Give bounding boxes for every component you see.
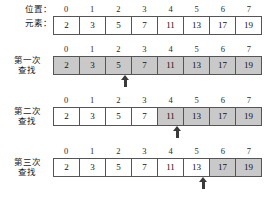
- index-label: 3: [131, 4, 157, 15]
- array-cell: 17: [210, 17, 236, 34]
- arrow-shaft: [176, 130, 179, 138]
- array-cell: 13: [184, 17, 210, 34]
- index-label: 5: [184, 146, 210, 157]
- array-cell: 13: [184, 108, 210, 125]
- index-label: 7: [236, 95, 262, 106]
- array-cell: 3: [80, 17, 106, 34]
- array-row-2: 2 3 5 7 11 13 17 19: [53, 107, 262, 126]
- array-cell: 11: [158, 57, 184, 74]
- array-cell: 17: [210, 57, 236, 74]
- index-label: 6: [210, 44, 236, 55]
- index-label: 1: [79, 146, 105, 157]
- row-label-line1: 第三次: [4, 157, 50, 167]
- index-label: 0: [53, 44, 79, 55]
- array-cell: 7: [132, 57, 158, 74]
- index-label: 2: [105, 44, 131, 55]
- array-cell: 3: [80, 108, 106, 125]
- index-label: 5: [184, 4, 210, 15]
- index-label: 7: [236, 146, 262, 157]
- index-label: 4: [158, 44, 184, 55]
- array-cell: 11: [158, 108, 184, 125]
- array-cell: 11: [158, 17, 184, 34]
- index-label: 1: [79, 4, 105, 15]
- array-cell: 7: [132, 159, 158, 176]
- array-cell: 11: [158, 159, 184, 176]
- index-strip-1: 0 1 2 3 4 5 6 7: [53, 44, 262, 55]
- row-label-pass-1: 第一次 查找: [4, 55, 50, 75]
- index-label: 4: [158, 95, 184, 106]
- array-cell: 7: [132, 17, 158, 34]
- index-label: 2: [105, 95, 131, 106]
- index-label: 5: [184, 95, 210, 106]
- array-cell: 5: [106, 17, 132, 34]
- array-cell: 3: [80, 57, 106, 74]
- index-label: 4: [158, 4, 184, 15]
- index-label: 6: [210, 4, 236, 15]
- array-cell: 19: [236, 17, 261, 34]
- array-cell: 5: [106, 57, 132, 74]
- arrow-shaft: [202, 181, 205, 189]
- binary-search-diagram: 位置： 0 1 2 3 4 5 6 7 元素： 2 3 5 7 11 13 17…: [0, 0, 269, 198]
- array-cell: 17: [210, 159, 236, 176]
- array-row-3: 2 3 5 7 11 13 17 19: [53, 158, 262, 177]
- index-label: 2: [105, 146, 131, 157]
- element-label: 元素：: [2, 18, 52, 28]
- array-cell: 2: [54, 159, 80, 176]
- pointer-arrow-pass-1: [121, 75, 130, 87]
- index-label: 4: [158, 146, 184, 157]
- index-label: 0: [53, 95, 79, 106]
- row-label-pass-3: 第三次 查找: [4, 157, 50, 177]
- array-cell: 2: [54, 17, 80, 34]
- index-label: 0: [53, 146, 79, 157]
- position-label: 位置：: [2, 4, 52, 14]
- row-label-line1: 第二次: [4, 106, 50, 116]
- array-cell: 17: [210, 108, 236, 125]
- array-cell: 5: [106, 159, 132, 176]
- array-row-1: 2 3 5 7 11 13 17 19: [53, 56, 262, 75]
- index-label: 5: [184, 44, 210, 55]
- array-cell: 2: [54, 57, 80, 74]
- array-row-0: 2 3 5 7 11 13 17 19: [53, 16, 262, 35]
- row-label-line1: 第一次: [4, 55, 50, 65]
- array-cell: 7: [132, 108, 158, 125]
- row-label-line2: 查找: [4, 167, 50, 177]
- array-cell: 19: [236, 108, 261, 125]
- pointer-arrow-pass-2: [173, 126, 182, 138]
- row-label-line2: 查找: [4, 65, 50, 75]
- index-label: 6: [210, 95, 236, 106]
- array-cell: 2: [54, 108, 80, 125]
- array-cell: 5: [106, 108, 132, 125]
- pointer-arrow-pass-3: [199, 177, 208, 189]
- index-strip-2: 0 1 2 3 4 5 6 7: [53, 95, 262, 106]
- index-label: 7: [236, 44, 262, 55]
- arrow-shaft: [124, 79, 127, 87]
- index-label: 3: [131, 95, 157, 106]
- index-label: 3: [131, 146, 157, 157]
- index-label: 6: [210, 146, 236, 157]
- index-label: 2: [105, 4, 131, 15]
- index-strip-3: 0 1 2 3 4 5 6 7: [53, 146, 262, 157]
- array-cell: 19: [236, 57, 261, 74]
- index-label: 1: [79, 95, 105, 106]
- row-label-pass-2: 第二次 查找: [4, 106, 50, 126]
- array-cell: 3: [80, 159, 106, 176]
- row-label-line2: 查找: [4, 116, 50, 126]
- index-label: 0: [53, 4, 79, 15]
- array-cell: 13: [184, 159, 210, 176]
- index-label: 7: [236, 4, 262, 15]
- index-strip-0: 0 1 2 3 4 5 6 7: [53, 4, 262, 15]
- array-cell: 13: [184, 57, 210, 74]
- index-label: 3: [131, 44, 157, 55]
- index-label: 1: [79, 44, 105, 55]
- array-cell: 19: [236, 159, 261, 176]
